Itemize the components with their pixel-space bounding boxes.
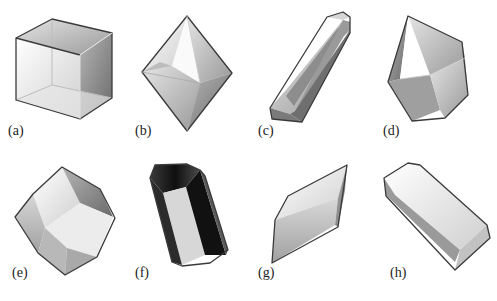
label-e: (e) <box>12 266 28 280</box>
crystal-drawings <box>0 0 497 301</box>
label-h: (h) <box>390 266 406 280</box>
crystal-g-rhombohedron <box>272 165 347 263</box>
crystal-figure: (a) (b) (c) (d) (e) (f) (g) (h) <box>0 0 497 301</box>
label-b: (b) <box>135 124 151 138</box>
crystal-f-dark-prism <box>150 164 228 266</box>
label-g: (g) <box>258 266 274 280</box>
crystal-c-prism <box>270 12 350 122</box>
label-d: (d) <box>383 124 399 138</box>
crystal-a-cube <box>16 19 112 119</box>
crystal-b-octahedron <box>142 16 232 131</box>
label-a: (a) <box>8 124 24 138</box>
crystal-d-polyhedron <box>388 16 468 121</box>
label-c: (c) <box>258 124 274 138</box>
label-f: (f) <box>135 266 149 280</box>
crystal-h-bar <box>384 163 490 270</box>
crystal-e-dodecahedron <box>15 167 115 275</box>
